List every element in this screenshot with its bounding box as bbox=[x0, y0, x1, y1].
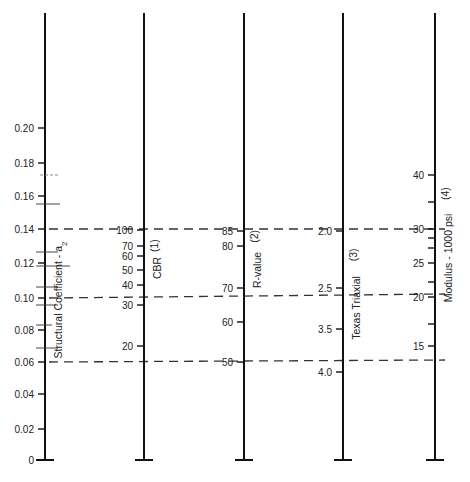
tick-label: 0.20 bbox=[15, 123, 35, 134]
axis-texas: 2.02.53.54.0Texas Triaxial(3) bbox=[318, 13, 362, 460]
tick-label: 70 bbox=[222, 283, 234, 294]
axis-note-cbr: (1) bbox=[148, 239, 160, 252]
tick-label: 100 bbox=[116, 225, 133, 236]
axis-cbr: 100706050403020CBR(1) bbox=[116, 13, 163, 460]
tick-label: 0.10 bbox=[15, 293, 35, 304]
axis-rvalue: 8580706050R-value(2) bbox=[222, 13, 263, 460]
tick-label: 60 bbox=[122, 251, 134, 262]
tick-label: 0.18 bbox=[15, 158, 35, 169]
tick-label: 2.5 bbox=[318, 283, 332, 294]
axis-title-texas: Texas Triaxial bbox=[350, 276, 362, 340]
axis-title-cbr: CBR bbox=[151, 256, 163, 279]
tick-label: 0.08 bbox=[15, 325, 35, 336]
tick-label: 4.0 bbox=[318, 367, 332, 378]
axis-modulus: 4030252015Modulus - 1000 psi(4) bbox=[413, 13, 454, 460]
reference-lines bbox=[49, 229, 445, 362]
tick-label: 50 bbox=[222, 357, 234, 368]
axis-title-rvalue: R-value bbox=[251, 252, 263, 288]
tick-label: 40 bbox=[122, 280, 134, 291]
axis-title-modulus: Modulus - 1000 psi bbox=[442, 214, 454, 303]
tick-label: 30 bbox=[413, 224, 425, 235]
tick-label: 25 bbox=[413, 258, 425, 269]
tick-label: 0.14 bbox=[15, 224, 35, 235]
tick-label: 3.5 bbox=[318, 324, 332, 335]
tick-label: 0 bbox=[28, 455, 34, 466]
axis-a2: 0.200.180.160.140.120.100.080.060.040.02… bbox=[15, 13, 70, 466]
tick-label: 60 bbox=[222, 317, 234, 328]
tick-label: 0.04 bbox=[15, 389, 35, 400]
axis-note-modulus: (4) bbox=[439, 187, 451, 200]
axis-note-rvalue: (2) bbox=[248, 230, 260, 243]
tick-label: 85 bbox=[222, 226, 234, 237]
tick-label: 15 bbox=[413, 341, 425, 352]
reference-line-2 bbox=[49, 360, 445, 362]
tick-label: 0.02 bbox=[15, 424, 35, 435]
tick-label: 30 bbox=[122, 300, 134, 311]
tick-label: 0.12 bbox=[15, 258, 35, 269]
tick-label: 40 bbox=[413, 170, 425, 181]
axis-note-texas: (3) bbox=[347, 248, 359, 261]
nomograph-chart: 0.200.180.160.140.120.100.080.060.040.02… bbox=[0, 0, 470, 482]
tick-label: 50 bbox=[122, 265, 134, 276]
tick-label: 2.0 bbox=[318, 226, 332, 237]
tick-label: 80 bbox=[222, 241, 234, 252]
axes-group: 0.200.180.160.140.120.100.080.060.040.02… bbox=[15, 13, 454, 466]
tick-label: 20 bbox=[413, 292, 425, 303]
reference-line-1 bbox=[49, 294, 445, 298]
axis-title-a2: Structural Coefficient - a2 bbox=[52, 241, 69, 358]
tick-label: 0.16 bbox=[15, 191, 35, 202]
tick-label: 0.06 bbox=[15, 357, 35, 368]
tick-label: 20 bbox=[122, 341, 134, 352]
